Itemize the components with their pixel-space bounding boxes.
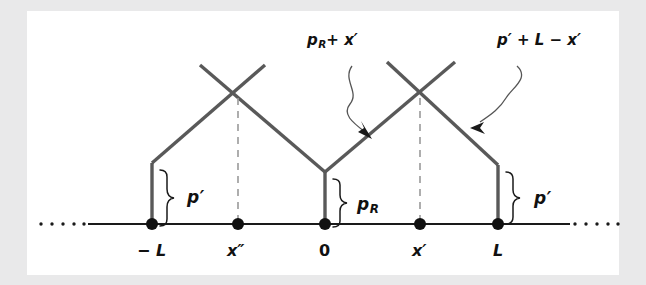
brace-right [506,172,520,224]
point-marker-x1 [414,218,426,230]
label-right-path-expression: p′ + L − x′ [497,33,581,48]
brace-group [160,170,520,227]
tick-label-minus-L: − L [137,243,166,259]
diagonal-left-up [152,65,265,163]
point-marker-minus-L [146,218,158,230]
brace-label-left-prime: ′ [200,187,204,207]
axis-left-ellipsis [39,222,85,225]
diagonal-right-up [325,62,455,172]
diagonal-left-down [200,65,325,172]
brace-center [333,179,347,227]
label-left-path-rest: + x′ [326,31,357,49]
callout-arrow-group [347,66,521,139]
tick-label-x1: x′ [412,243,427,259]
brace-label-left: p′ [187,189,204,209]
point-marker-x2 [232,218,244,230]
brace-left [160,170,174,226]
brace-label-center-sub: R [369,202,379,216]
callout-arrowhead-right [470,122,485,134]
brace-label-center: pR [357,196,379,216]
brace-label-right: p′ [534,190,551,210]
point-marker-L [492,218,504,230]
callout-arrow-right [480,66,522,122]
point-marker-zero [319,218,331,230]
brace-label-right-prime: ′ [547,188,551,208]
tick-label-L: L [493,243,503,259]
axis-right-ellipsis [573,222,619,225]
figure-root: pR+ x′ p′ + L − x′ p′ pR p′ − L x″ 0 x′ … [0,0,646,285]
tick-label-zero: 0 [319,243,330,259]
diagonal-right-down [387,62,498,165]
callout-arrow-left [347,66,365,132]
label-left-path-expression: pR+ x′ [307,33,358,49]
tick-label-x2: x″ [227,243,244,259]
